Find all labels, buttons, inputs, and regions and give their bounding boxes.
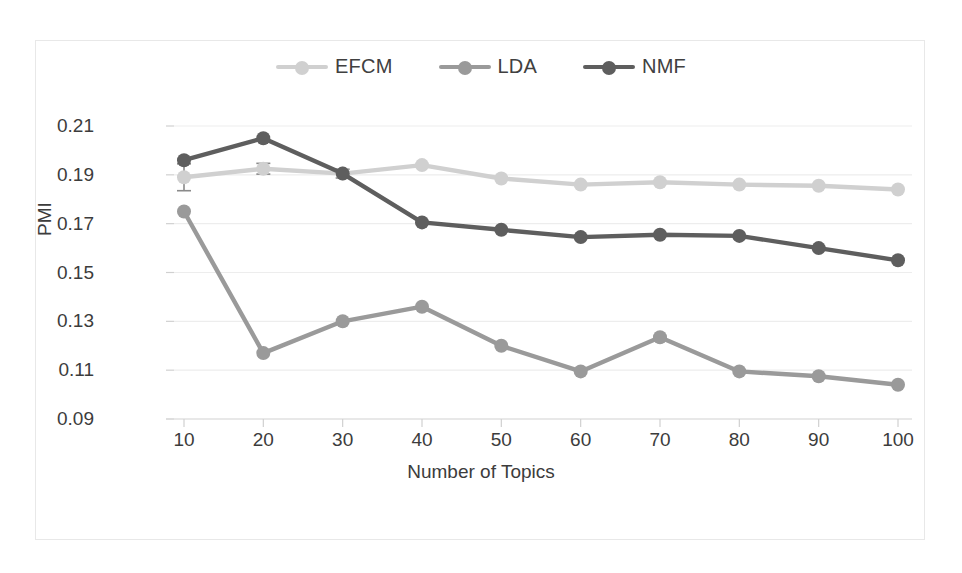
data-point-efcm-70 <box>653 175 667 189</box>
data-point-efcm-80 <box>732 178 746 192</box>
data-point-lda-30 <box>336 314 350 328</box>
plot-area: PMI Number of Topics 0.090.110.130.150.1… <box>36 41 926 541</box>
series-line-efcm <box>184 165 898 189</box>
data-point-efcm-10 <box>177 170 191 184</box>
data-point-nmf-10 <box>177 153 191 167</box>
data-point-lda-60 <box>574 364 588 378</box>
data-point-efcm-90 <box>812 179 826 193</box>
series-nmf <box>177 131 905 267</box>
chart-container: EFCM LDA NMF PMI Number of Topics 0.090.… <box>35 40 925 540</box>
data-point-efcm-40 <box>415 158 429 172</box>
data-point-nmf-60 <box>574 230 588 244</box>
data-point-nmf-80 <box>732 229 746 243</box>
data-point-efcm-60 <box>574 178 588 192</box>
series-efcm <box>177 158 905 196</box>
data-point-nmf-90 <box>812 241 826 255</box>
data-point-nmf-40 <box>415 215 429 229</box>
data-point-nmf-50 <box>494 223 508 237</box>
data-point-nmf-100 <box>891 253 905 267</box>
series-line-nmf <box>184 138 898 260</box>
data-point-nmf-30 <box>336 167 350 181</box>
data-point-nmf-20 <box>256 131 270 145</box>
data-point-efcm-50 <box>494 172 508 186</box>
data-point-lda-80 <box>732 364 746 378</box>
data-point-nmf-70 <box>653 228 667 242</box>
data-point-efcm-100 <box>891 183 905 197</box>
data-point-lda-100 <box>891 378 905 392</box>
data-point-lda-10 <box>177 205 191 219</box>
data-point-lda-90 <box>812 369 826 383</box>
data-point-lda-50 <box>494 339 508 353</box>
plot-svg <box>36 41 926 541</box>
data-point-lda-70 <box>653 330 667 344</box>
data-point-lda-40 <box>415 300 429 314</box>
data-point-efcm-20 <box>256 162 270 176</box>
data-point-lda-20 <box>256 346 270 360</box>
series-line-lda <box>184 212 898 385</box>
